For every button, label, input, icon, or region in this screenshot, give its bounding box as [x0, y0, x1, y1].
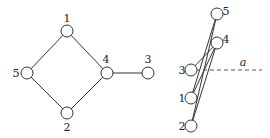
left-node-3 [142, 67, 154, 79]
left-node-label-4: 4 [103, 53, 110, 66]
left-node-1 [61, 25, 73, 37]
left-edge-1-5 [27, 31, 67, 73]
right-node-label-2: 2 [179, 120, 186, 133]
diagram-canvas: a 15432 54312 [0, 0, 270, 138]
right-node-label-5: 5 [223, 5, 230, 18]
left-edge-5-2 [27, 73, 67, 113]
left-node-4 [101, 67, 113, 79]
right-node-5 [211, 8, 223, 20]
right-node-2 [185, 120, 197, 132]
left-node-label-5: 5 [13, 67, 20, 80]
left-graph-edges [27, 31, 148, 113]
right-node-label-4: 4 [223, 33, 230, 46]
left-node-label-1: 1 [64, 12, 71, 25]
right-node-label-3: 3 [179, 64, 186, 77]
right-node-3 [185, 64, 197, 76]
axis-label-a: a [240, 56, 247, 69]
left-node-label-2: 2 [64, 121, 71, 134]
right-node-4 [211, 37, 223, 49]
left-node-label-3: 3 [145, 53, 152, 66]
left-node-2 [61, 107, 73, 119]
left-edge-2-4 [67, 73, 107, 113]
right-node-1 [185, 92, 197, 104]
right-node-label-1: 1 [179, 92, 186, 105]
left-edge-1-4 [67, 31, 107, 73]
left-node-5 [21, 67, 33, 79]
